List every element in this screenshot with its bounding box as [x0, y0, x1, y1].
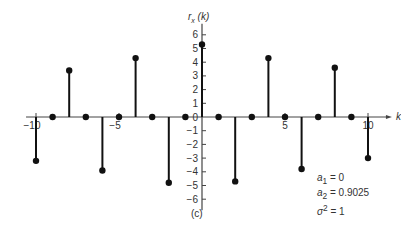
param-a2-value: = 0.9025	[327, 187, 369, 198]
stem-marker	[282, 114, 288, 120]
stem-marker	[332, 64, 338, 70]
param-sigma: σ2 = 1	[317, 202, 369, 218]
stem-marker	[66, 67, 72, 73]
x-tick-label: 5	[282, 120, 288, 131]
y-tick-label: 0	[192, 112, 198, 123]
y-axis-label: rx (k)	[188, 11, 209, 24]
parameter-annotations: a1 = 0 a2 = 0.9025 σ2 = 1	[317, 172, 369, 218]
y-tick-label: 3	[192, 70, 198, 81]
param-a2: a2 = 0.9025	[317, 187, 369, 202]
y-tick-label: 2	[192, 84, 198, 95]
stem-marker	[265, 55, 271, 61]
y-tick-label: 5	[192, 43, 198, 54]
param-sigma-value: = 1	[328, 206, 345, 217]
stem-marker	[33, 158, 39, 164]
stem-marker	[149, 114, 155, 120]
param-a1-value: = 0	[327, 172, 344, 183]
x-tick-label: −5	[109, 120, 121, 131]
stem-marker	[215, 114, 221, 120]
stem-marker	[99, 167, 105, 173]
y-tick-label: 1	[192, 98, 198, 109]
stem-marker	[315, 114, 321, 120]
stem-marker	[132, 55, 138, 61]
stem-marker	[182, 114, 188, 120]
y-tick-label: −3	[187, 153, 199, 164]
y-tick-label: −4	[187, 166, 199, 177]
y-tick-label: −6	[187, 194, 199, 205]
stem-marker	[83, 114, 89, 120]
y-tick-label: −5	[187, 180, 199, 191]
y-tick-label: 4	[192, 57, 198, 68]
stem-marker	[348, 114, 354, 120]
stem-marker	[298, 166, 304, 172]
y-tick-label: 6	[192, 29, 198, 40]
x-axis-arrow-icon	[386, 115, 392, 119]
stem-marker	[116, 114, 122, 120]
x-tick-label: −10	[24, 120, 41, 131]
x-axis-label: k	[396, 111, 401, 122]
stem-marker	[166, 180, 172, 186]
stem-marker	[232, 178, 238, 184]
y-tick-label: −1	[187, 125, 199, 136]
stem-marker	[365, 155, 371, 161]
param-a1: a1 = 0	[317, 172, 369, 187]
figure-caption: (c)	[191, 208, 203, 219]
stem-marker	[49, 114, 55, 120]
stem-marker	[249, 114, 255, 120]
y-tick-label: −2	[187, 139, 199, 150]
stem-marker	[199, 41, 205, 47]
